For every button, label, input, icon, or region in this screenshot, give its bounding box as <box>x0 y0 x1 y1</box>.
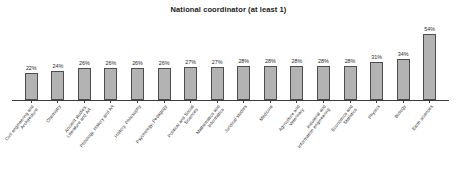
category-label: Chemistry <box>45 104 62 124</box>
bar-value-label: 54% <box>424 27 435 32</box>
x-label-slot: Psychology, Pedagogy <box>151 103 178 181</box>
bar-value-label: 28% <box>292 59 303 64</box>
x-label-slot: Physics <box>363 103 390 181</box>
x-label-slot: Economics andStatistics <box>337 103 364 181</box>
bar-group: 34% <box>390 18 417 100</box>
category-label-line: Biology <box>394 104 408 119</box>
plot-area: 22%24%26%26%26%26%27%27%28%28%28%28%28%3… <box>18 18 443 100</box>
bar[interactable] <box>131 68 144 100</box>
bar[interactable] <box>104 68 117 100</box>
bars-container: 22%24%26%26%26%26%27%27%28%28%28%28%28%3… <box>18 18 443 100</box>
bar-value-label: 31% <box>371 55 382 60</box>
bar-value-label: 26% <box>106 61 117 66</box>
bar-group: 22% <box>18 18 45 100</box>
bar[interactable] <box>211 67 224 100</box>
chart-title: National coordinator (at least 1) <box>0 5 457 14</box>
bar[interactable] <box>370 62 383 100</box>
category-label: Medicine <box>259 104 275 122</box>
bar[interactable] <box>290 66 303 100</box>
bar-group: 28% <box>337 18 364 100</box>
bar-value-label: 34% <box>398 52 409 57</box>
x-label-slot: Mathematics andInformatics <box>204 103 231 181</box>
bar-value-label: 27% <box>185 60 196 65</box>
bar[interactable] <box>317 66 330 100</box>
bar[interactable] <box>51 71 64 100</box>
bar-group: 26% <box>124 18 151 100</box>
category-label: Civil engineering andArchitecture <box>4 104 39 145</box>
bar-group: 26% <box>71 18 98 100</box>
x-label-slot: Industrial andInformation engineering <box>310 103 337 181</box>
x-label-slot: Philology, History and Art <box>98 103 125 181</box>
bar[interactable] <box>184 67 197 100</box>
category-label-line: Physics <box>367 104 381 120</box>
bar[interactable] <box>158 68 171 100</box>
category-label: Biology <box>394 104 408 119</box>
x-label-slot: Earth sciences <box>416 103 443 181</box>
bar[interactable] <box>237 66 250 100</box>
x-label-slot: Civil engineering andArchitecture <box>18 103 45 181</box>
bar[interactable] <box>25 73 38 100</box>
bar-value-label: 26% <box>159 61 170 66</box>
bar-value-label: 28% <box>265 59 276 64</box>
x-label-slot: Political and SocialSciences <box>177 103 204 181</box>
bar-value-label: 27% <box>212 60 223 65</box>
bar-group: 28% <box>231 18 258 100</box>
x-label-slot: Medicine <box>257 103 284 181</box>
bar-value-label: 28% <box>238 59 249 64</box>
bar[interactable] <box>397 59 410 100</box>
bar-value-label: 26% <box>132 61 143 66</box>
bar-group: 54% <box>416 18 443 100</box>
bar-group: 27% <box>204 18 231 100</box>
category-label: Physics <box>367 104 381 120</box>
bar-group: 28% <box>284 18 311 100</box>
bar-value-label: 22% <box>26 66 37 71</box>
bar-group: 28% <box>257 18 284 100</box>
category-label-line: Medicine <box>259 104 275 122</box>
bar[interactable] <box>264 66 277 100</box>
bar-group: 26% <box>98 18 125 100</box>
bar[interactable] <box>344 66 357 100</box>
bar-value-label: 28% <box>318 59 329 64</box>
bar-chart: National coordinator (at least 1) 22%24%… <box>0 0 457 183</box>
category-label-line: Chemistry <box>45 104 62 124</box>
x-label-slot: Chemistry <box>45 103 72 181</box>
category-label-line: Civil engineering and <box>4 104 35 142</box>
bar-group: 26% <box>151 18 178 100</box>
bar-group: 28% <box>310 18 337 100</box>
bar-group: 24% <box>45 18 72 100</box>
x-label-slot: Biology <box>390 103 417 181</box>
x-axis-labels: Civil engineering andArchitectureChemist… <box>18 103 443 181</box>
bar-group: 27% <box>177 18 204 100</box>
bar-value-label: 28% <box>345 59 356 64</box>
x-label-slot: Juridical studies <box>231 103 258 181</box>
bar-value-label: 26% <box>79 61 90 66</box>
bar[interactable] <box>423 34 436 100</box>
bar-value-label: 24% <box>52 64 63 69</box>
bar-group: 31% <box>363 18 390 100</box>
bar[interactable] <box>78 68 91 100</box>
